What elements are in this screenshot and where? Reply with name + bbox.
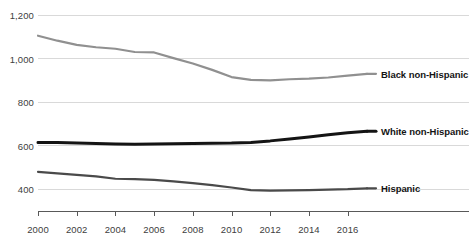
x-axis-tick-labels: 200020022004200620082010201220142016	[0, 0, 469, 245]
x-tick-label-2016: 2016	[337, 224, 359, 235]
x-tick-label-2008: 2008	[182, 224, 204, 235]
line-chart: 4006008001,0001,200 20002002200420062008…	[0, 0, 469, 245]
x-tick-label-2012: 2012	[259, 224, 281, 235]
series-label-0: Black non-Hispanic	[381, 68, 468, 79]
x-tick-label-2004: 2004	[105, 224, 127, 235]
x-tick-label-2010: 2010	[221, 224, 243, 235]
series-label-2: Hispanic	[381, 183, 420, 194]
series-label-1: White non-Hispanic	[381, 126, 469, 137]
x-tick-label-2002: 2002	[66, 224, 88, 235]
x-tick-label-2000: 2000	[27, 224, 49, 235]
x-tick-label-2014: 2014	[298, 224, 320, 235]
x-tick-label-2006: 2006	[143, 224, 165, 235]
